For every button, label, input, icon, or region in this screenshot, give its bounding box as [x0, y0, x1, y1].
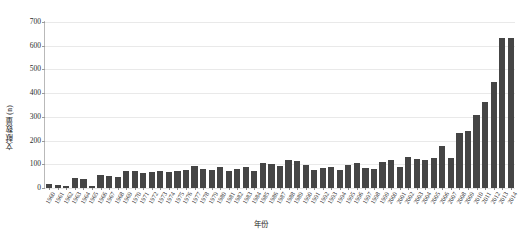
bar[interactable]: [456, 133, 462, 188]
bar[interactable]: [149, 172, 155, 188]
bar[interactable]: [209, 170, 215, 188]
bar[interactable]: [217, 167, 223, 188]
bar[interactable]: [448, 158, 454, 188]
y-tick-label: 500: [30, 66, 41, 74]
bar[interactable]: [191, 166, 197, 188]
y-tick-label: 300: [30, 113, 41, 121]
y-tick-label: 600: [30, 42, 41, 50]
bar[interactable]: [311, 170, 317, 188]
bar[interactable]: [97, 175, 103, 188]
bar[interactable]: [226, 171, 232, 188]
bar[interactable]: [379, 162, 385, 188]
bar[interactable]: [465, 131, 471, 188]
bar[interactable]: [354, 163, 360, 188]
bar[interactable]: [362, 168, 368, 188]
bar[interactable]: [388, 160, 394, 188]
bar[interactable]: [251, 171, 257, 188]
bar[interactable]: [80, 179, 86, 188]
y-tick-label: 400: [30, 89, 41, 97]
bar[interactable]: [345, 165, 351, 188]
x-axis-title: 年份: [0, 218, 522, 229]
bar[interactable]: [439, 146, 445, 188]
bar[interactable]: [482, 102, 488, 188]
bar[interactable]: [140, 173, 146, 188]
bar[interactable]: [260, 163, 266, 188]
bar[interactable]: [166, 172, 172, 188]
y-tick-mark: [42, 188, 45, 189]
y-tick-label: 100: [30, 161, 41, 169]
bar-series: [45, 22, 515, 188]
chart-figure: 0100200300400500600700 19601961196219631…: [0, 0, 522, 236]
bar[interactable]: [337, 170, 343, 188]
plot-area: 0100200300400500600700 19601961196219631…: [45, 22, 515, 188]
bar[interactable]: [294, 161, 300, 188]
y-axis-title: 文献数量 (n): [4, 105, 15, 150]
bar[interactable]: [277, 166, 283, 188]
y-tick-label: 0: [37, 184, 41, 192]
bar[interactable]: [491, 82, 497, 188]
bar[interactable]: [508, 38, 514, 188]
bar[interactable]: [328, 167, 334, 188]
bar[interactable]: [174, 171, 180, 188]
bar[interactable]: [405, 157, 411, 188]
bar[interactable]: [414, 159, 420, 188]
bar[interactable]: [320, 168, 326, 188]
bar[interactable]: [371, 169, 377, 188]
bar[interactable]: [431, 158, 437, 188]
bar[interactable]: [115, 177, 121, 188]
bar[interactable]: [132, 171, 138, 188]
bar[interactable]: [499, 38, 505, 188]
y-tick-label: 700: [30, 18, 41, 26]
bar[interactable]: [268, 164, 274, 188]
bar[interactable]: [123, 171, 129, 188]
bar[interactable]: [397, 167, 403, 188]
bar[interactable]: [243, 167, 249, 188]
bar[interactable]: [157, 171, 163, 188]
bar[interactable]: [183, 170, 189, 188]
bar[interactable]: [422, 160, 428, 188]
bar[interactable]: [106, 176, 112, 188]
bar[interactable]: [285, 160, 291, 188]
bar[interactable]: [72, 178, 78, 188]
bar[interactable]: [473, 115, 479, 188]
y-tick-label: 200: [30, 137, 41, 145]
bar[interactable]: [303, 165, 309, 188]
bar[interactable]: [234, 169, 240, 188]
bar[interactable]: [200, 169, 206, 188]
